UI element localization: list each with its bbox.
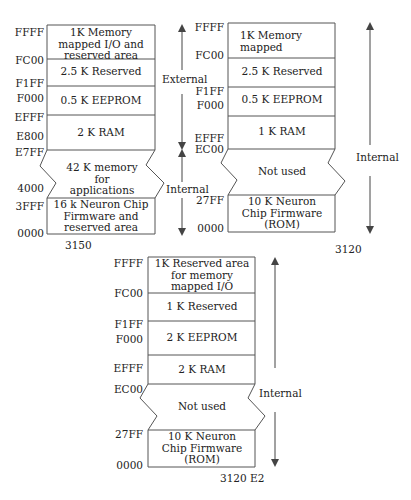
segment-not-used: Not used xyxy=(149,401,255,413)
address-label: FC00 xyxy=(103,288,143,299)
segment-ram: 1 K RAM xyxy=(229,126,335,138)
external-label: External xyxy=(161,73,208,85)
segment-firmware-rom: 10 K Neuron Chip Firmware (ROM) xyxy=(239,196,325,231)
diagram-caption: 3120 E2 xyxy=(220,472,264,484)
address-label: EFFF xyxy=(103,363,143,374)
segment-memory-mapped-io: 1K Reserved area for memory mapped I/O xyxy=(150,258,254,293)
address-label: F1FF xyxy=(103,319,143,330)
segment-reserved: 2.5 K Reserved xyxy=(229,66,335,78)
address-label: E800 xyxy=(4,131,44,142)
segment-eeprom: 2 K EEPROM xyxy=(149,332,255,344)
address-label: EFFF xyxy=(4,112,44,123)
segment-firmware-rom: 10 K Neuron Chip Firmware (ROM) xyxy=(159,431,245,466)
address-label: F000 xyxy=(103,334,143,345)
address-label: FFFF xyxy=(103,258,143,269)
segment-application-memory: 42 K memory for applications xyxy=(62,162,142,197)
segment-memory-mapped: 1K Memory mapped xyxy=(240,30,340,53)
segment-reserved: 2.5 K Reserved xyxy=(48,66,154,78)
segment-firmware: 16 k Neuron Chip Firmware and reserved a… xyxy=(48,199,154,234)
segment-reserved: 1 K Reserved xyxy=(149,301,255,313)
diagram-caption: 3120 xyxy=(335,243,362,255)
address-label: F000 xyxy=(4,93,44,104)
segment-memory-mapped-io: 1K Memory mapped I/O and reserved area xyxy=(48,27,154,62)
address-label: FC00 xyxy=(184,50,224,61)
address-label: EC00 xyxy=(184,144,224,155)
address-label: E7FF xyxy=(4,147,44,158)
address-label: F1FF xyxy=(4,78,44,89)
address-label: FFFF xyxy=(184,22,224,33)
segment-ram: 2 K RAM xyxy=(149,364,255,376)
address-label: EC00 xyxy=(103,384,143,395)
address-label: 0000 xyxy=(103,460,143,471)
address-label: 27FF xyxy=(103,429,143,440)
internal-label: Internal xyxy=(355,151,400,163)
segment-not-used: Not used xyxy=(229,166,335,178)
segment-ram: 2 K RAM xyxy=(48,127,154,139)
address-label: F000 xyxy=(184,100,224,111)
address-label: 0000 xyxy=(184,223,224,234)
address-label: 27FF xyxy=(184,195,224,206)
address-label: 0000 xyxy=(4,228,44,239)
internal-label: Internal xyxy=(258,387,303,399)
diagram-caption: 3150 xyxy=(65,239,92,251)
address-label: FC00 xyxy=(4,55,44,66)
segment-eeprom: 0.5 K EEPROM xyxy=(48,95,154,107)
segment-eeprom: 0.5 K EEPROM xyxy=(229,94,335,106)
address-label: F1FF xyxy=(184,86,224,97)
address-label: FFFF xyxy=(4,27,44,38)
address-label: 4000 xyxy=(4,183,44,194)
address-label: 3FFF xyxy=(4,201,44,212)
